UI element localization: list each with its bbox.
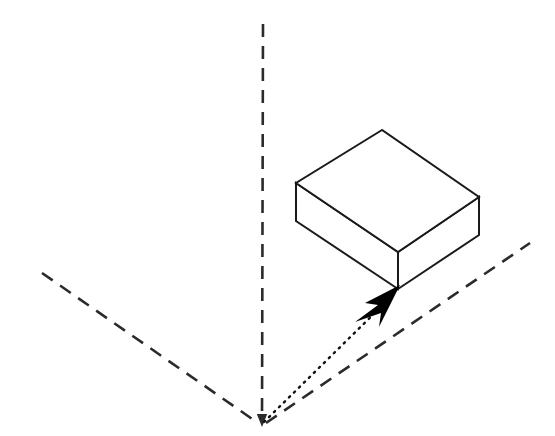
cuboid-group	[296, 130, 479, 289]
vertical-axis	[262, 24, 263, 421]
left-axis	[42, 273, 258, 423]
position-vector-group	[264, 285, 400, 422]
diagram-svg	[0, 0, 555, 436]
isometric-diagram-canvas	[0, 0, 555, 436]
position-vector-arrowhead-icon	[355, 285, 400, 327]
